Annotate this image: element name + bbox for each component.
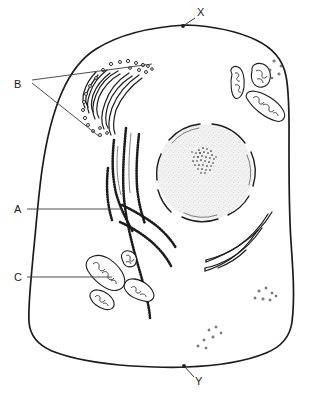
mitochondrion xyxy=(231,66,244,98)
label-a: A xyxy=(14,203,22,215)
label-c: C xyxy=(14,271,22,283)
label-x: X xyxy=(197,6,205,18)
label-y: Y xyxy=(195,375,203,387)
mitochondrion xyxy=(121,251,136,267)
label-b: B xyxy=(14,78,21,90)
figure-canvas: B A C X Y xyxy=(0,0,318,393)
animal-cell-diagram: B A C X Y xyxy=(0,0,318,393)
mitochondrion xyxy=(251,63,270,87)
